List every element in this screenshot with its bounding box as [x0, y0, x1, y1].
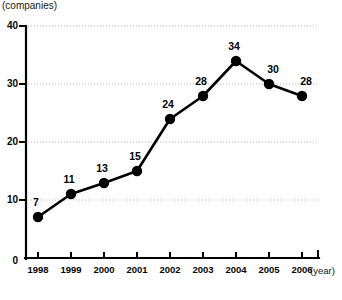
x-axis-ticks	[38, 250, 318, 258]
y-tick-label-10: 10	[0, 194, 18, 205]
data-point-2001	[132, 166, 142, 176]
data-label-2000: 13	[90, 162, 114, 174]
x-tick-label-2004: 2004	[219, 264, 253, 275]
x-tick-label-2001: 2001	[120, 264, 154, 275]
data-label-1999: 11	[57, 173, 81, 185]
data-label-2006: 28	[294, 75, 318, 87]
x-tick-label-2005: 2005	[252, 264, 286, 275]
data-point-2006	[297, 91, 307, 101]
x-tick-label-2003: 2003	[186, 264, 220, 275]
chart-canvas	[0, 0, 342, 300]
line-chart: (companies)	[0, 0, 342, 300]
data-label-2005: 30	[261, 63, 285, 75]
data-label-1998: 7	[24, 196, 48, 208]
data-markers	[33, 56, 307, 222]
data-label-2001: 15	[123, 150, 147, 162]
data-point-1999	[66, 189, 76, 199]
data-label-2004: 34	[222, 40, 246, 52]
data-point-2003	[198, 91, 208, 101]
x-axis-unit-label: (year)	[310, 265, 335, 276]
y-tick-label-30: 30	[0, 78, 18, 89]
data-point-2004	[231, 56, 241, 66]
y-tick-label-40: 40	[0, 20, 18, 31]
y-tick-label-0: 0	[0, 255, 18, 266]
data-point-2005	[264, 79, 274, 89]
data-label-2003: 28	[189, 75, 213, 87]
data-label-2002: 24	[156, 98, 180, 110]
y-tick-label-20: 20	[0, 136, 18, 147]
data-point-1998	[33, 212, 43, 222]
figure-caption-clipped	[0, 296, 342, 300]
data-point-2000	[99, 178, 109, 188]
x-tick-label-1999: 1999	[54, 264, 88, 275]
x-tick-label-1998: 1998	[21, 264, 55, 275]
x-tick-label-2000: 2000	[87, 264, 121, 275]
data-point-2002	[165, 114, 175, 124]
x-tick-label-2002: 2002	[153, 264, 187, 275]
